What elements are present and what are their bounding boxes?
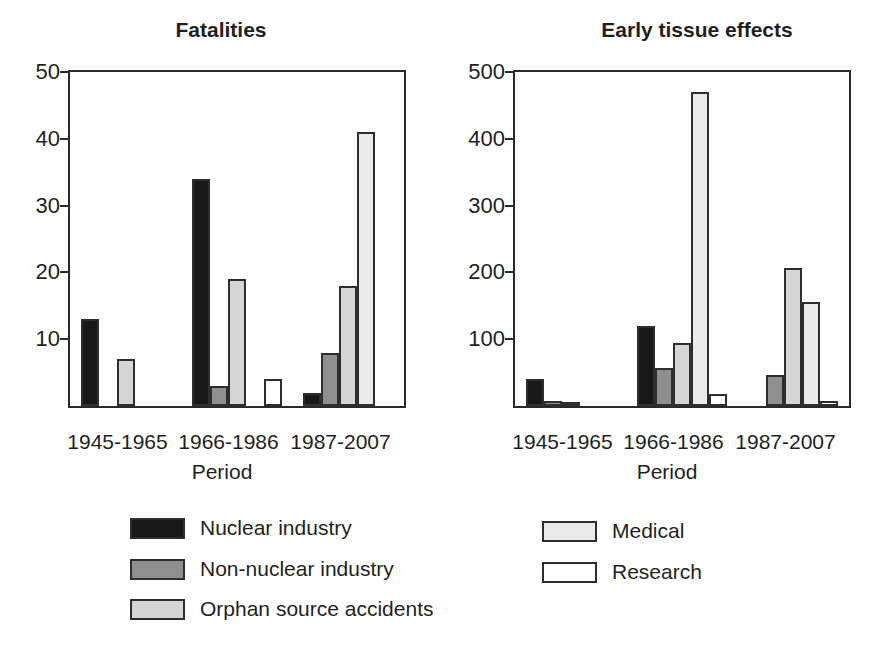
y-tick-mark bbox=[505, 205, 513, 207]
legend-item-orphan-source-accidents: Orphan source accidents bbox=[130, 597, 433, 621]
y-tick-label: 30 bbox=[0, 193, 60, 219]
bar-medical-1966-1986 bbox=[691, 92, 709, 406]
early-tissue-effects-y-axis: 100200300400500 bbox=[445, 72, 505, 406]
x-tick-label: 1966-1986 bbox=[618, 429, 729, 455]
y-tick-label: 400 bbox=[445, 126, 505, 152]
legend-label: Research bbox=[612, 560, 702, 584]
y-tick-label: 40 bbox=[0, 126, 60, 152]
legend-item-research: Research bbox=[542, 560, 702, 584]
bar-research-1966-1986 bbox=[709, 394, 727, 406]
bar-nuclear-industry-1987-2007 bbox=[303, 393, 321, 406]
early-tissue-effects-x-axis-title: Period bbox=[498, 459, 836, 485]
bar-non-nuclear-industry-1966-1986 bbox=[655, 368, 673, 406]
bar-non-nuclear-industry-1987-2007 bbox=[321, 353, 339, 406]
bar-orphan-source-accidents-1945-1965 bbox=[117, 359, 135, 406]
y-tick-mark bbox=[505, 338, 513, 340]
bar-nuclear-industry-1966-1986 bbox=[192, 179, 210, 406]
legend-item-non-nuclear-industry: Non-nuclear industry bbox=[130, 557, 394, 581]
bar-research-1987-2007 bbox=[820, 401, 838, 406]
figure: Fatalities Early tissue effects 10203040… bbox=[0, 0, 885, 660]
y-tick-mark bbox=[60, 205, 68, 207]
bar-orphan-source-accidents-1987-2007 bbox=[339, 286, 357, 406]
bar-orphan-source-accidents-1966-1986 bbox=[673, 343, 691, 406]
bar-non-nuclear-industry-1987-2007 bbox=[766, 375, 784, 406]
y-tick-label: 10 bbox=[0, 326, 60, 352]
y-tick-mark bbox=[60, 138, 68, 140]
fatalities-x-axis: 1945-19651966-19861987-2007 bbox=[62, 429, 400, 455]
early-tissue-effects-plot bbox=[513, 70, 851, 408]
legend-swatch-nuclear-industry bbox=[130, 518, 185, 539]
x-tick-label: 1945-1965 bbox=[507, 429, 618, 455]
fatalities-x-axis-title: Period bbox=[53, 459, 391, 485]
legend-label: Nuclear industry bbox=[200, 516, 352, 540]
x-tick-label: 1945-1965 bbox=[62, 429, 173, 455]
bar-medical-1987-2007 bbox=[802, 302, 820, 406]
bar-nuclear-industry-1945-1965 bbox=[526, 379, 544, 406]
fatalities-plot bbox=[68, 70, 406, 408]
bar-orphan-source-accidents-1945-1965 bbox=[562, 402, 580, 406]
legend-swatch-research bbox=[542, 562, 597, 583]
legend-label: Non-nuclear industry bbox=[200, 557, 394, 581]
y-tick-label: 20 bbox=[0, 259, 60, 285]
x-tick-label: 1987-2007 bbox=[285, 429, 396, 455]
y-tick-label: 500 bbox=[445, 59, 505, 85]
y-tick-mark bbox=[60, 71, 68, 73]
legend-label: Medical bbox=[612, 519, 684, 543]
bar-non-nuclear-industry-1966-1986 bbox=[210, 386, 228, 406]
bar-orphan-source-accidents-1966-1986 bbox=[228, 279, 246, 406]
fatalities-y-axis: 1020304050 bbox=[0, 72, 60, 406]
y-tick-label: 300 bbox=[445, 193, 505, 219]
y-tick-mark bbox=[505, 138, 513, 140]
early-tissue-effects-chart-title: Early tissue effects bbox=[528, 16, 866, 44]
legend-item-nuclear-industry: Nuclear industry bbox=[130, 516, 352, 540]
legend-item-medical: Medical bbox=[542, 519, 684, 543]
legend-swatch-non-nuclear-industry bbox=[130, 559, 185, 580]
legend-swatch-orphan-source-accidents bbox=[130, 599, 185, 620]
bar-nuclear-industry-1945-1965 bbox=[81, 319, 99, 406]
fatalities-chart-title: Fatalities bbox=[52, 16, 390, 44]
y-tick-label: 200 bbox=[445, 259, 505, 285]
bar-orphan-source-accidents-1987-2007 bbox=[784, 268, 802, 406]
y-tick-mark bbox=[60, 271, 68, 273]
x-tick-label: 1987-2007 bbox=[730, 429, 841, 455]
legend-label: Orphan source accidents bbox=[200, 597, 433, 621]
x-tick-label: 1966-1986 bbox=[173, 429, 284, 455]
legend-swatch-medical bbox=[542, 521, 597, 542]
y-tick-mark bbox=[60, 338, 68, 340]
bar-non-nuclear-industry-1945-1965 bbox=[544, 401, 562, 406]
y-tick-mark bbox=[505, 71, 513, 73]
y-tick-label: 100 bbox=[445, 326, 505, 352]
bar-nuclear-industry-1966-1986 bbox=[637, 326, 655, 406]
y-tick-mark bbox=[505, 271, 513, 273]
bar-medical-1987-2007 bbox=[357, 132, 375, 406]
early-tissue-effects-x-axis: 1945-19651966-19861987-2007 bbox=[507, 429, 845, 455]
y-tick-label: 50 bbox=[0, 59, 60, 85]
bar-research-1966-1986 bbox=[264, 379, 282, 406]
